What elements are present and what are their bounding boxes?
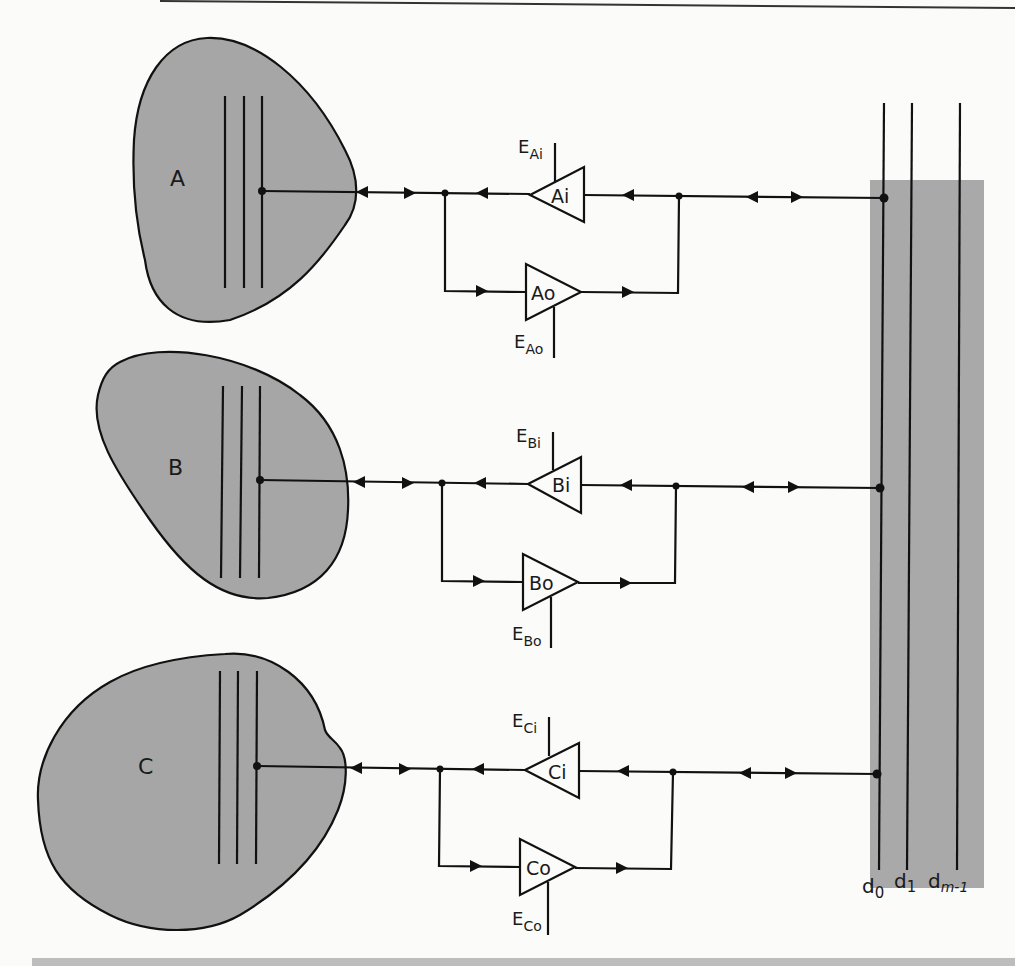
bus-panel	[870, 180, 984, 888]
enable-bi-label: EBi	[516, 425, 541, 451]
buffer-ci: Ci ECi	[512, 710, 579, 798]
arrow-left-icon	[472, 763, 484, 775]
channel-c: Ci ECi Co ECo	[253, 710, 882, 935]
device-b: B	[97, 352, 349, 598]
arrow-left-icon	[476, 187, 488, 199]
buffer-ao-label: Ao	[531, 282, 555, 304]
arrow-left-icon	[742, 481, 754, 493]
bus-diagram: d0 d1 dm-1 A Ai EAi	[0, 0, 1015, 966]
arrow-right-icon	[402, 477, 414, 489]
arrow-left-icon	[620, 479, 632, 491]
arrow-right-icon	[620, 577, 632, 589]
arrow-right-icon	[622, 286, 634, 298]
arrow-right-icon	[788, 481, 800, 493]
arrow-left-icon	[739, 767, 751, 779]
arrow-left-icon	[350, 762, 362, 774]
channel-b: Bi EBi Bo EBo	[256, 425, 885, 649]
device-c: C	[38, 654, 346, 930]
arrow-right-icon	[399, 763, 411, 775]
buffer-bi-label: Bi	[552, 474, 570, 496]
device-c-body	[38, 654, 346, 930]
arrow-left-icon	[622, 189, 634, 201]
enable-ao-label: EAo	[514, 331, 543, 357]
buffer-co-label: Co	[526, 857, 551, 879]
enable-ci-label: ECi	[512, 710, 537, 736]
device-a-label: A	[170, 166, 185, 191]
enable-bo-label: EBo	[512, 623, 542, 649]
arrow-left-icon	[474, 477, 486, 489]
buffer-bo: Bo EBo	[512, 554, 578, 649]
device-c-line-2	[237, 671, 238, 864]
arrow-left-icon	[353, 476, 365, 488]
arrow-right-icon	[785, 767, 797, 779]
arrow-left-icon	[617, 765, 629, 777]
buffer-ci-label: Ci	[548, 761, 567, 783]
device-c-line-1	[219, 671, 220, 864]
caption-bar	[32, 958, 1015, 966]
arrow-right-icon	[404, 187, 416, 199]
buffer-bo-label: Bo	[529, 572, 554, 594]
device-c-label: C	[138, 754, 153, 779]
top-rule	[160, 1, 1015, 8]
arrow-left-icon	[356, 186, 368, 198]
arrow-right-icon	[616, 862, 628, 874]
enable-co-label: ECo	[512, 908, 542, 934]
buffer-bi: Bi EBi	[516, 425, 581, 513]
device-a: A	[133, 38, 356, 322]
device-b-label: B	[168, 455, 183, 480]
enable-ai-label: EAi	[518, 136, 543, 162]
arrow-right-icon	[470, 860, 482, 872]
arrow-right-icon	[791, 191, 803, 203]
buffer-ai-label: Ai	[551, 185, 569, 207]
arrow-left-icon	[746, 191, 758, 203]
buffer-co: Co ECo	[512, 839, 575, 935]
arrow-right-icon	[476, 285, 488, 297]
buffer-ai: Ai EAi	[518, 136, 584, 222]
arrow-right-icon	[473, 575, 485, 587]
buffer-ao: Ao EAo	[514, 264, 581, 358]
